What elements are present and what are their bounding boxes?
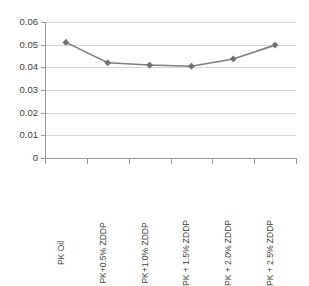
y-tick-mark — [41, 45, 45, 46]
y-tick-label: 0.06 — [20, 17, 39, 27]
y-tick-mark — [41, 113, 45, 114]
plot-area — [45, 22, 296, 158]
data-point-marker — [63, 39, 69, 45]
x-axis-label: PK+1.0% ZDDP — [129, 164, 171, 253]
x-axis-label: PK+0.5% ZDDP — [87, 164, 129, 253]
x-axis-label: PK Oil — [45, 164, 87, 253]
x-axis-label: PK + 2.5% ZDDP — [254, 164, 296, 253]
data-point-marker — [272, 42, 278, 48]
y-tick-label: 0.02 — [20, 108, 39, 118]
y-tick-label: 0 — [33, 153, 38, 163]
y-tick-label: 0.04 — [20, 62, 39, 72]
x-axis-label-text: PK + 2.5% ZDDP — [266, 220, 275, 286]
y-tick-mark — [41, 22, 45, 23]
x-axis-label-text: PK + 1.5% ZDDP — [182, 220, 191, 286]
x-axis-label-text: PK Oil — [57, 241, 66, 265]
y-tick-label: 0.05 — [20, 40, 39, 50]
x-axis-label: PK + 2.0% ZDDP — [212, 164, 254, 253]
data-point-marker — [105, 60, 111, 66]
y-tick-mark — [41, 135, 45, 136]
data-point-marker — [230, 56, 236, 62]
y-tick-label: 0.03 — [20, 85, 39, 95]
y-tick-mark — [41, 90, 45, 91]
y-tick-mark — [41, 67, 45, 68]
x-axis-label-text: PK+0.5% ZDDP — [99, 222, 108, 283]
series-layer — [45, 22, 296, 158]
series-line — [66, 42, 275, 66]
x-axis-label: PK + 1.5% ZDDP — [171, 164, 213, 253]
y-axis-line — [45, 22, 46, 159]
x-axis-label-text: PK+1.0% ZDDP — [141, 222, 150, 283]
y-tick-label: 0.01 — [20, 130, 39, 140]
x-axis-labels: PK OilPK+0.5% ZDDPPK+1.0% ZDDPPK + 1.5% … — [45, 164, 297, 253]
data-point-marker — [146, 62, 152, 68]
data-point-marker — [188, 63, 194, 69]
x-axis-label-text: PK + 2.0% ZDDP — [224, 220, 233, 286]
